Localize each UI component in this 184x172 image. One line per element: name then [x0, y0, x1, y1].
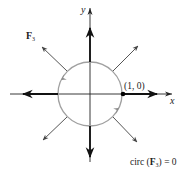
point-marker — [121, 92, 126, 97]
y-axis-label: y — [80, 4, 86, 15]
field-label: F3 — [26, 30, 35, 42]
caption-suffix: ) = 0 — [159, 157, 177, 168]
vector-southwest — [43, 117, 67, 140]
point-label: (1, 0) — [124, 81, 145, 92]
circulation-caption: circ (F3) = 0 — [130, 157, 177, 168]
field-label-subscript: 3 — [32, 36, 35, 42]
x-axis-label: x — [169, 95, 175, 106]
vector-northwest — [42, 47, 67, 71]
vector-southeast — [113, 117, 137, 142]
caption-prefix: circ ( — [130, 157, 150, 168]
vector-field-diagram: y x (1, 0) F3 circ (F3) = 0 — [0, 0, 184, 172]
vector-northeast — [113, 46, 138, 71]
